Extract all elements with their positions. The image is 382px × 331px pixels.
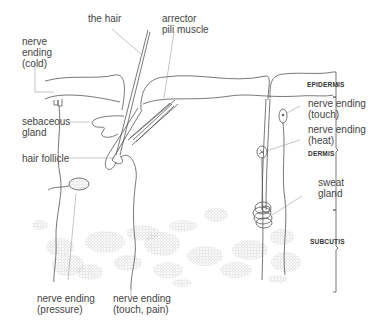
label-line: (heat)	[308, 135, 366, 146]
label-line: (cold)	[22, 58, 52, 69]
label-nerve-ending-touch: nerve ending (touch)	[308, 98, 366, 120]
label-line: (pressure)	[37, 304, 95, 315]
label-line: sweat	[318, 177, 344, 188]
layer-epidermis: EPIDERMIS	[307, 81, 345, 88]
label-nerve-ending-heat: nerve ending (heat)	[308, 124, 366, 146]
label-line: nerve ending	[37, 293, 95, 304]
label-sweat-gland: sweat gland	[318, 177, 344, 199]
label-the-hair: the hair	[88, 13, 121, 24]
label-sebaceous-gland: sebaceous gland	[22, 116, 70, 138]
label-line: pili muscle	[162, 24, 209, 35]
label-nerve-ending-touch-pain: nerve ending (touch, pain)	[113, 293, 171, 315]
label-line: (touch, pain)	[113, 304, 171, 315]
subcutaneous-fat	[32, 208, 301, 287]
skin-illustration	[0, 0, 382, 331]
label-line: ending	[22, 47, 52, 58]
label-line: nerve	[22, 36, 52, 47]
skin-diagram: the hair arrector pili muscle nerve endi…	[0, 0, 382, 331]
label-hair-follicle: hair follicle	[22, 153, 69, 164]
label-line: nerve ending	[113, 293, 171, 304]
layer-subcutis: SUBCUTIS	[310, 238, 345, 245]
label-line: sebaceous	[22, 116, 70, 127]
label-line: gland	[22, 127, 70, 138]
label-line: (touch)	[308, 109, 366, 120]
label-line: nerve ending	[308, 124, 366, 135]
label-line: arrector	[162, 13, 209, 24]
label-line: gland	[318, 188, 344, 199]
label-nerve-ending-pressure: nerve ending (pressure)	[37, 293, 95, 315]
label-nerve-ending-cold: nerve ending (cold)	[22, 36, 52, 69]
label-line: nerve ending	[308, 98, 366, 109]
layer-dermis: DERMIS	[308, 150, 334, 157]
label-arrector-pili-muscle: arrector pili muscle	[162, 13, 209, 35]
